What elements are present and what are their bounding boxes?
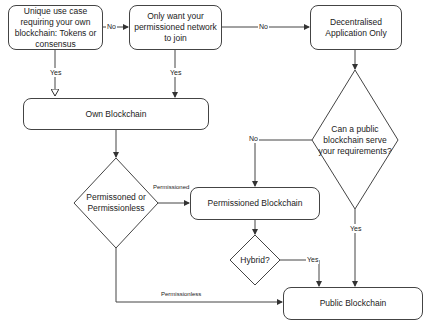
edge-label-hybrid-yes: Yes bbox=[306, 255, 319, 264]
edge-label-no-2: No bbox=[258, 22, 269, 31]
node-unique-use-case: Unique use case requiring your own block… bbox=[8, 5, 103, 50]
perm-diamond-label: Permissoned or Permissionless bbox=[80, 188, 152, 218]
node-unique-use-case-label: Unique use case requiring your own block… bbox=[13, 6, 98, 50]
public-question-label: Can a public blockchain serve your requi… bbox=[318, 118, 392, 162]
node-own-blockchain: Own Blockchain bbox=[23, 98, 209, 130]
edge-label-yes-1: Yes bbox=[49, 68, 62, 77]
node-public-blockchain: Public Blockchain bbox=[283, 287, 423, 320]
edge-label-permissionless: Permissionless bbox=[160, 290, 202, 299]
edge-label-no-3: No bbox=[248, 134, 259, 143]
node-permissioned-network-label: Only want your permissioned network to j… bbox=[134, 11, 217, 44]
node-decentralised-app-label: Decentralised Application Only bbox=[315, 17, 397, 39]
edge-label-yes-2: Yes bbox=[169, 68, 182, 77]
node-own-blockchain-label: Own Blockchain bbox=[86, 109, 147, 120]
node-permissioned-blockchain: Permissioned Blockchain bbox=[190, 187, 320, 220]
node-permissioned-network: Only want your permissioned network to j… bbox=[129, 5, 222, 50]
node-public-blockchain-label: Public Blockchain bbox=[320, 298, 387, 309]
edge-label-permissioned: Permissioned bbox=[152, 183, 190, 192]
node-permissioned-blockchain-label: Permissioned Blockchain bbox=[208, 198, 303, 209]
hybrid-label: Hybrid? bbox=[232, 254, 278, 266]
edge-label-no-1: No bbox=[106, 22, 117, 31]
edge-label-yes-3: Yes bbox=[349, 224, 362, 233]
edge-question-no bbox=[255, 140, 312, 186]
node-decentralised-app: Decentralised Application Only bbox=[310, 5, 402, 50]
